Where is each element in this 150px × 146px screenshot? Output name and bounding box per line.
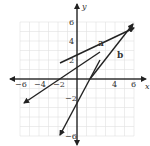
tick-x-neg6: −6 [15, 80, 27, 89]
tick-y-6: 6 [69, 18, 74, 27]
tick-x-4: 4 [112, 80, 117, 89]
line-a-lower [24, 52, 100, 103]
tick-y-neg2: −2 [65, 94, 77, 103]
tick-x-6: 6 [131, 80, 136, 89]
tick-y-4: 4 [69, 37, 74, 46]
y-axis-label: y [81, 2, 87, 11]
line-b-upper [90, 24, 133, 79]
line-a-label: a [98, 38, 104, 48]
tick-x-neg2: −2 [53, 80, 65, 89]
tick-y-neg6: −6 [65, 132, 77, 141]
x-axis-label: x [145, 82, 150, 91]
coordinate-plane: x y −6 −4 −2 4 6 6 4 2 −2 −6 a b [0, 0, 150, 146]
line-b-label: b [117, 50, 123, 60]
tick-x-neg4: −4 [34, 80, 46, 89]
